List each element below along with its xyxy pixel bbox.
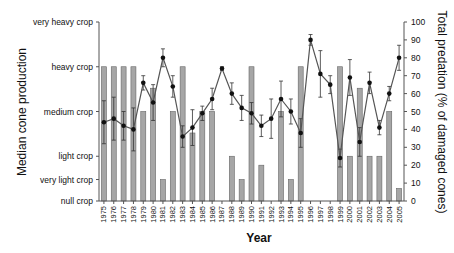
x-tick-label: 1981 [158, 206, 167, 223]
bar [249, 67, 254, 201]
x-tick-label: 1984 [188, 206, 197, 223]
x-tick-label: 2002 [365, 206, 374, 223]
right-tick-label: 50 [411, 107, 421, 117]
data-point [180, 134, 185, 139]
data-point [279, 97, 284, 102]
data-point [318, 72, 323, 77]
x-tick-label: 1977 [119, 206, 128, 223]
data-point [377, 125, 382, 130]
x-tick-label: 2000 [345, 206, 354, 223]
x-tick-label: 2004 [385, 206, 394, 223]
left-tick-label: very light crop [40, 175, 93, 185]
right-tick-label: 70 [411, 71, 421, 81]
bar-series-cone-production [101, 67, 401, 201]
bar [259, 165, 264, 201]
x-tick-label: 1985 [198, 206, 207, 223]
data-point [338, 156, 343, 161]
data-point [170, 84, 175, 89]
x-tick-label: 1997 [316, 206, 325, 223]
data-point [190, 125, 195, 130]
bar [239, 180, 244, 201]
right-tick-label: 100 [411, 17, 425, 27]
data-point [259, 124, 264, 129]
chart: null cropvery light croplight cropmedium… [0, 0, 454, 253]
x-tick-label: 1987 [217, 206, 226, 223]
x-tick-label: 1980 [149, 206, 158, 223]
data-point [210, 97, 215, 102]
data-point [387, 91, 392, 96]
right-tick-label: 30 [411, 142, 421, 152]
right-tick-label: 40 [411, 124, 421, 134]
bar [387, 112, 392, 202]
data-point [348, 75, 353, 80]
bar [288, 180, 293, 201]
data-point [200, 111, 205, 116]
bar [229, 156, 234, 201]
x-tick-label: 1978 [129, 206, 138, 223]
data-point [397, 56, 402, 61]
left-tick-label: light crop [59, 151, 94, 161]
right-tick-label: 90 [411, 35, 421, 45]
data-point [102, 120, 107, 125]
right-tick-label: 0 [411, 196, 416, 206]
data-point [230, 91, 235, 96]
x-tick-label: 1990 [247, 206, 256, 223]
data-point [141, 81, 146, 86]
left-tick-label: null crop [61, 196, 93, 206]
x-tick-label: 1998 [326, 206, 335, 223]
left-axis-title: Median cone production [15, 48, 29, 176]
data-point [239, 106, 244, 111]
x-tick-label: 1982 [168, 206, 177, 223]
left-tick-label: very heavy crop [33, 17, 93, 27]
x-axis-title: Year [246, 231, 272, 245]
x-tick-label: 1992 [267, 206, 276, 223]
x-tick-label: 2005 [395, 206, 404, 223]
x-tick-label: 1975 [99, 206, 108, 223]
data-point [289, 109, 294, 114]
x-tick-label: 1996 [306, 206, 315, 223]
bar [200, 112, 205, 202]
data-point [249, 111, 254, 116]
x-tick-label: 2001 [355, 206, 364, 223]
bar [141, 112, 146, 202]
data-point [269, 116, 274, 121]
data-point [328, 82, 333, 87]
x-tick-label: 1988 [227, 206, 236, 223]
x-tick-label: 1983 [178, 206, 187, 223]
left-tick-label: heavy crop [51, 62, 93, 72]
data-point [121, 124, 126, 129]
bar [279, 112, 284, 202]
data-point [151, 100, 156, 105]
data-point [298, 131, 303, 136]
data-point [357, 140, 362, 145]
x-tick-label: 1986 [208, 206, 217, 223]
x-tick-label: 2003 [375, 206, 384, 223]
right-tick-label: 80 [411, 53, 421, 63]
x-tick-label: 1993 [277, 206, 286, 223]
right-tick-label: 20 [411, 160, 421, 170]
right-tick-label: 60 [411, 89, 421, 99]
data-point [220, 66, 225, 71]
x-tick-label: 1994 [286, 206, 295, 223]
x-tick-label: 1989 [237, 206, 246, 223]
bar [367, 156, 372, 201]
bar [170, 112, 175, 202]
left-tick-label: medium crop [44, 107, 93, 117]
data-point [367, 81, 372, 86]
bar [338, 67, 343, 201]
bar [160, 180, 165, 201]
bar [377, 156, 382, 201]
data-point [111, 116, 116, 121]
bar [347, 156, 352, 201]
data-point [131, 127, 136, 132]
x-tick-label: 1995 [296, 206, 305, 223]
data-point [161, 56, 166, 61]
x-tick-label: 1976 [109, 206, 118, 223]
x-tick-label: 1979 [139, 206, 148, 223]
right-axis-title: Total predation (% of damaged cones) [435, 11, 449, 214]
x-tick-label: 1999 [336, 206, 345, 223]
data-point [308, 38, 313, 43]
bar [210, 112, 215, 202]
bar [397, 188, 402, 201]
right-tick-label: 10 [411, 178, 421, 188]
